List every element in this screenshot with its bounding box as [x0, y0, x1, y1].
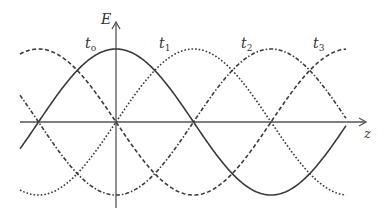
curve-label-t2: t2: [241, 35, 252, 53]
curve-label-t0: to: [85, 35, 96, 53]
wave-diagram: E z to t1 t2 t3: [0, 0, 389, 219]
curve-label-t3: t3: [313, 35, 325, 53]
curve-label-t1: t1: [159, 35, 170, 53]
e-axis-label: E: [100, 11, 111, 27]
z-axis-label: z: [363, 126, 371, 141]
